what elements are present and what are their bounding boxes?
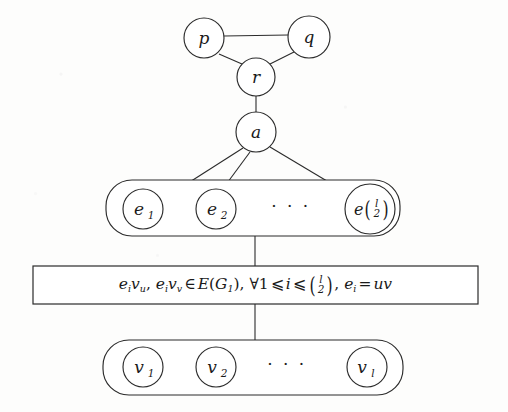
node-e2[interactable]: e 2 <box>196 189 236 229</box>
node-vl-subscript: l <box>371 367 374 379</box>
edge-vertex-group-ellipsis: · · · <box>271 196 311 216</box>
node-q[interactable]: q <box>288 16 330 58</box>
edge-vertex-group: e 1 e 2 · · · <box>106 180 400 236</box>
edge-condition-box <box>33 266 478 304</box>
edge-p-q <box>224 35 288 36</box>
node-e-binom[interactable] <box>345 184 395 234</box>
node-p-label: p <box>199 28 210 48</box>
node-v2-label: v <box>207 357 217 377</box>
node-v2-subscript: 2 <box>220 367 228 379</box>
graph-diagram: p q r a e 1 e 2 <box>0 0 508 412</box>
node-e2-label: e <box>207 199 217 219</box>
node-r-label: r <box>252 67 261 87</box>
node-vl[interactable]: v l <box>347 347 387 387</box>
node-r[interactable]: r <box>237 58 275 96</box>
node-a-label: a <box>251 122 261 142</box>
node-e2-subscript: 2 <box>220 209 228 221</box>
node-vl-label: v <box>357 357 367 377</box>
vertex-group-ellipsis: · · · <box>267 354 307 374</box>
node-e-binom-circle <box>345 184 395 234</box>
vertex-group: v 1 v 2 · · · v l <box>103 340 403 395</box>
node-q-label: q <box>304 27 315 47</box>
edge-q-r <box>270 52 294 64</box>
node-vl-circle <box>347 347 387 387</box>
node-v1-label: v <box>134 357 144 377</box>
node-a[interactable]: a <box>236 112 276 152</box>
node-e1-label: e <box>134 199 144 219</box>
node-v1[interactable]: v 1 <box>123 347 163 387</box>
edge-p-r <box>219 54 242 64</box>
node-e1[interactable]: e 1 <box>123 189 163 229</box>
node-v2[interactable]: v 2 <box>196 347 236 387</box>
node-p[interactable]: p <box>184 18 224 58</box>
node-v1-subscript: 1 <box>148 367 155 379</box>
figure-canvas: p q r a e 1 e 2 <box>0 0 508 412</box>
node-e1-subscript: 1 <box>148 209 155 221</box>
